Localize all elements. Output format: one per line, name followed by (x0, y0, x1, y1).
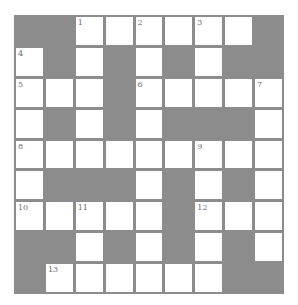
crossword-cell[interactable] (16, 171, 43, 199)
block-square (195, 110, 222, 138)
block-square (165, 171, 192, 199)
block-square (46, 48, 73, 76)
clue-number: 4 (18, 49, 23, 58)
clue-number: 7 (257, 80, 262, 89)
crossword-cell[interactable] (46, 202, 73, 230)
crossword-cell[interactable] (225, 202, 252, 230)
block-square (225, 110, 252, 138)
clue-number: 11 (78, 203, 88, 212)
crossword-cell[interactable] (195, 171, 222, 199)
block-square (16, 264, 43, 292)
crossword-cell[interactable] (255, 171, 282, 199)
block-square (106, 110, 133, 138)
clue-number: 10 (18, 203, 28, 212)
crossword-cell[interactable] (106, 202, 133, 230)
clue-number: 3 (197, 18, 202, 27)
clue-number: 6 (138, 80, 143, 89)
crossword-cell[interactable] (136, 171, 163, 199)
block-square (165, 202, 192, 230)
clue-number: 12 (197, 203, 207, 212)
block-square (76, 171, 103, 199)
block-square (225, 233, 252, 261)
crossword-cell[interactable]: 8 (16, 141, 43, 169)
block-square (106, 171, 133, 199)
crossword-cell[interactable] (106, 141, 133, 169)
crossword-cell[interactable]: 11 (76, 202, 103, 230)
crossword-cell[interactable] (255, 202, 282, 230)
crossword-cell[interactable] (106, 264, 133, 292)
crossword-cell[interactable] (136, 202, 163, 230)
crossword-cell[interactable] (76, 48, 103, 76)
crossword-cell[interactable] (16, 110, 43, 138)
crossword-cell[interactable] (195, 48, 222, 76)
block-square (106, 48, 133, 76)
crossword-cell[interactable] (255, 141, 282, 169)
clue-number: 1 (78, 18, 83, 27)
crossword-cell[interactable] (225, 79, 252, 107)
crossword-cell[interactable]: 9 (195, 141, 222, 169)
crossword-cell[interactable] (76, 264, 103, 292)
block-square (225, 48, 252, 76)
block-square (46, 171, 73, 199)
crossword-cell[interactable] (136, 233, 163, 261)
crossword-cell[interactable]: 3 (195, 17, 222, 45)
crossword-cell[interactable] (165, 17, 192, 45)
block-square (16, 233, 43, 261)
crossword-cell[interactable] (76, 141, 103, 169)
crossword-cell[interactable]: 1 (76, 17, 103, 45)
crossword-cell[interactable] (76, 233, 103, 261)
block-square (46, 17, 73, 45)
block-square (46, 110, 73, 138)
block-square (165, 48, 192, 76)
crossword-cell[interactable] (165, 141, 192, 169)
crossword-cell[interactable] (165, 264, 192, 292)
crossword-cell[interactable] (255, 110, 282, 138)
crossword-cell[interactable] (225, 17, 252, 45)
crossword-cell[interactable] (255, 233, 282, 261)
crossword-cell[interactable]: 6 (136, 79, 163, 107)
crossword-cell[interactable] (136, 264, 163, 292)
crossword-cell[interactable] (136, 48, 163, 76)
crossword-cell[interactable]: 10 (16, 202, 43, 230)
crossword-cell[interactable]: 4 (16, 48, 43, 76)
block-square (165, 233, 192, 261)
crossword-cell[interactable] (225, 141, 252, 169)
crossword-cell[interactable] (136, 141, 163, 169)
crossword-cell[interactable] (165, 79, 192, 107)
crossword-cell[interactable] (136, 110, 163, 138)
clue-number: 8 (18, 142, 23, 151)
block-square (165, 110, 192, 138)
crossword-cell[interactable] (195, 79, 222, 107)
block-square (16, 17, 43, 45)
crossword-cell[interactable]: 7 (255, 79, 282, 107)
crossword-cell[interactable] (195, 264, 222, 292)
crossword-cell[interactable] (46, 141, 73, 169)
crossword-cell[interactable]: 5 (16, 79, 43, 107)
crossword-cell[interactable] (76, 79, 103, 107)
crossword-cell[interactable] (46, 79, 73, 107)
crossword-cell[interactable] (76, 110, 103, 138)
clue-number: 5 (18, 80, 23, 89)
crossword-grid: 12345678910111213 (14, 15, 284, 294)
block-square (255, 264, 282, 292)
crossword-cell[interactable]: 2 (136, 17, 163, 45)
crossword-cell[interactable]: 13 (46, 264, 73, 292)
clue-number: 9 (197, 142, 202, 151)
block-square (106, 233, 133, 261)
block-square (255, 17, 282, 45)
crossword-cell[interactable] (195, 233, 222, 261)
block-square (255, 48, 282, 76)
crossword-cell[interactable]: 12 (195, 202, 222, 230)
block-square (225, 171, 252, 199)
clue-number: 2 (138, 18, 143, 27)
block-square (106, 79, 133, 107)
block-square (225, 264, 252, 292)
crossword-cell[interactable] (106, 17, 133, 45)
block-square (46, 233, 73, 261)
clue-number: 13 (48, 265, 58, 274)
